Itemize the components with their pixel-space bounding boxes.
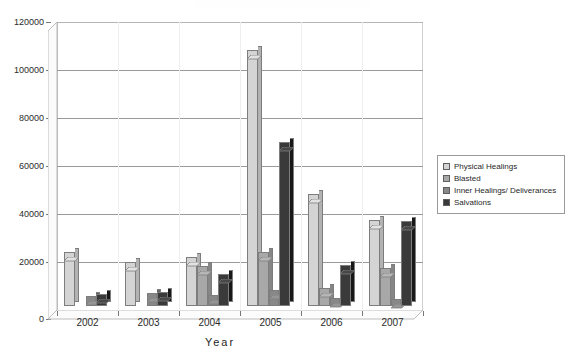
legend-item-label: Blasted	[454, 174, 481, 183]
x-tick-mark	[240, 311, 241, 316]
x-tick-label: 2006	[302, 318, 362, 328]
legend-item-label: Physical Healings	[454, 162, 517, 171]
x-tick-label: 2005	[241, 318, 301, 328]
legend-item: Blasted	[443, 174, 559, 183]
bar-chart: 020000400006000080000100000120000 200220…	[0, 0, 571, 361]
x-tick-mark	[301, 311, 302, 316]
x-tick-mark	[423, 311, 424, 316]
legend-swatch-icon	[443, 175, 450, 182]
legend-item: Inner Healings/ Deliverances	[443, 186, 559, 195]
x-tick-label: 2003	[119, 318, 179, 328]
x-tick-mark	[179, 311, 180, 316]
legend-swatch-icon	[443, 163, 450, 170]
x-tick-label: 2004	[180, 318, 240, 328]
legend-swatch-icon	[443, 199, 450, 206]
legend-item-label: Salvations	[454, 198, 491, 207]
x-tick-label: 2007	[363, 318, 423, 328]
x-tick-mark	[118, 311, 119, 316]
legend-item: Salvations	[443, 198, 559, 207]
x-tick-mark	[57, 311, 58, 316]
legend-item: Physical Healings	[443, 162, 559, 171]
x-axis-title: Year	[0, 336, 440, 348]
legend-swatch-icon	[443, 187, 450, 194]
legend: Physical HealingsBlastedInner Healings/ …	[437, 155, 565, 214]
x-tick-mark	[362, 311, 363, 316]
x-tick-label: 2002	[58, 318, 118, 328]
legend-item-label: Inner Healings/ Deliverances	[454, 186, 556, 195]
